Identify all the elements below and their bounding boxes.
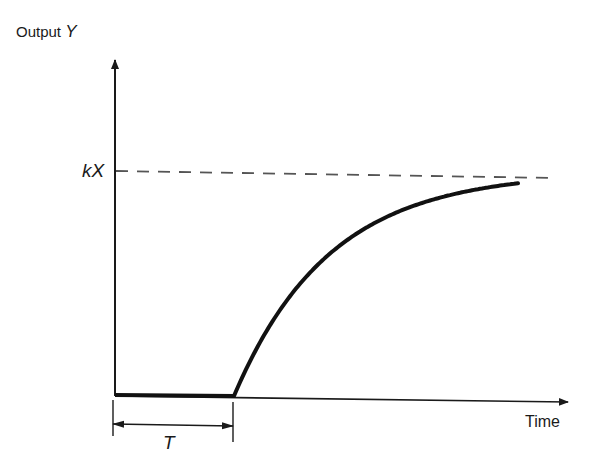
diagram-canvas: Output Y kX Time T <box>0 0 592 475</box>
x-axis-label: Time <box>525 413 560 431</box>
response-curve <box>234 183 518 396</box>
response-plot <box>0 0 592 475</box>
asymptote-label: kX <box>82 160 104 182</box>
dead-time-segment <box>115 395 234 396</box>
y-axis-label: Output Y <box>16 22 77 42</box>
asymptote-line <box>116 171 556 178</box>
y-axis-symbol: Y <box>65 22 76 41</box>
dead-time-dimension <box>113 424 233 426</box>
dead-time-label: T <box>163 432 175 454</box>
